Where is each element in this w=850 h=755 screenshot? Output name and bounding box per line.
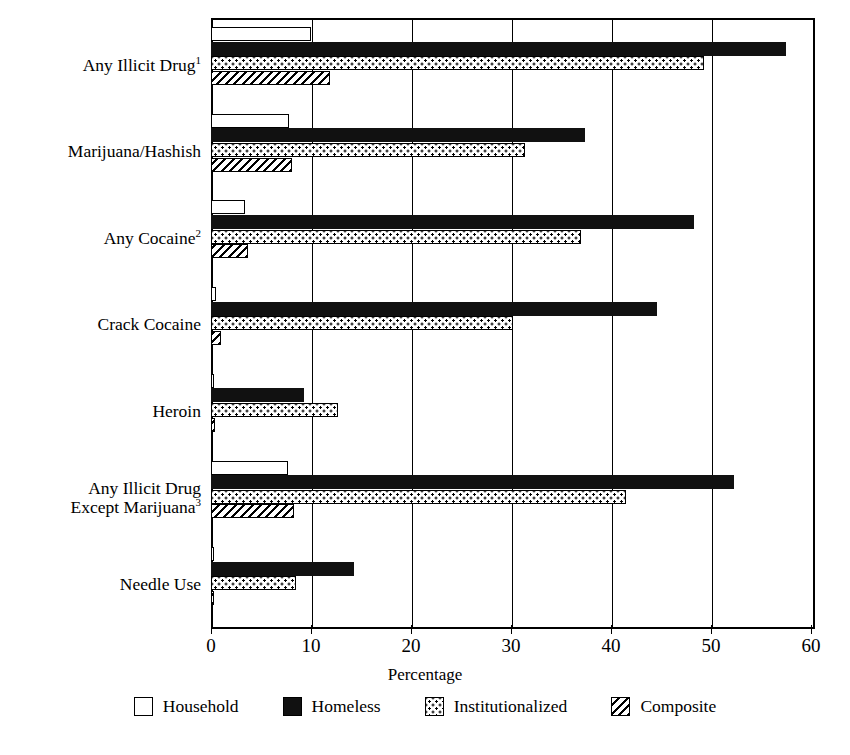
- x-tick-40: [611, 625, 612, 634]
- legend-item-composite[interactable]: Composite: [611, 696, 716, 717]
- bar-household-6: [211, 547, 214, 561]
- x-tick-label-10: 10: [281, 635, 341, 657]
- bar-household-5: [211, 461, 288, 475]
- category-label-line2: Except Marijuana3: [0, 497, 201, 517]
- category-label-line1: Any Illicit Drug: [0, 479, 201, 498]
- x-tick-label-20: 20: [381, 635, 441, 657]
- x-tick-60: [811, 625, 812, 634]
- bar-composite-0: [211, 71, 330, 85]
- category-label-0: Any Illicit Drug1: [0, 55, 213, 75]
- bar-institutionalized-6: [211, 576, 296, 590]
- legend-swatch-composite-icon: [611, 697, 630, 716]
- category-label-2: Any Cocaine2: [0, 228, 213, 248]
- bar-chart: Any Illicit Drug1Marijuana/HashishAny Co…: [0, 0, 850, 755]
- category-label-6: Needle Use: [0, 575, 213, 594]
- x-tick-label-60: 60: [781, 635, 841, 657]
- legend-swatch-household-icon: [134, 697, 153, 716]
- bar-institutionalized-4: [211, 403, 338, 417]
- bar-composite-2: [211, 244, 248, 258]
- bar-composite-5: [211, 504, 294, 518]
- legend-label-institutionalized: Institutionalized: [454, 696, 568, 717]
- x-tick-label-0: 0: [181, 635, 241, 657]
- x-tick-30: [511, 625, 512, 634]
- footnote-marker: 1: [196, 54, 202, 66]
- category-label-4: Heroin: [0, 402, 213, 421]
- bar-household-4: [211, 374, 214, 388]
- x-tick-20: [411, 625, 412, 634]
- bar-institutionalized-5: [211, 490, 626, 504]
- bar-household-0: [211, 27, 311, 41]
- x-axis-title: Percentage: [0, 665, 850, 685]
- legend-label-household: Household: [163, 696, 239, 717]
- bar-institutionalized-1: [211, 143, 525, 157]
- x-tick-label-40: 40: [581, 635, 641, 657]
- chart-legend: Household Homeless Institutionalized Com…: [0, 696, 850, 717]
- x-tick-0: [211, 625, 212, 634]
- x-tick-label-50: 50: [681, 635, 741, 657]
- bar-household-2: [211, 200, 245, 214]
- bar-homeless-0: [211, 42, 786, 56]
- bar-household-1: [211, 114, 289, 128]
- bar-composite-1: [211, 158, 292, 172]
- bar-homeless-1: [211, 128, 585, 142]
- bar-institutionalized-2: [211, 230, 581, 244]
- legend-swatch-homeless-icon: [283, 697, 302, 716]
- bar-household-3: [211, 287, 216, 301]
- x-tick-50: [711, 625, 712, 634]
- legend-label-homeless: Homeless: [312, 696, 381, 717]
- bar-homeless-4: [211, 388, 304, 402]
- legend-item-institutionalized[interactable]: Institutionalized: [425, 696, 568, 717]
- x-tick-10: [311, 625, 312, 634]
- gridline-40: [612, 20, 613, 627]
- category-label-5: Any Illicit DrugExcept Marijuana3: [0, 479, 213, 518]
- bar-homeless-2: [211, 215, 694, 229]
- x-tick-label-30: 30: [481, 635, 541, 657]
- bar-institutionalized-0: [211, 56, 704, 70]
- legend-item-homeless[interactable]: Homeless: [283, 696, 381, 717]
- footnote-marker: 2: [196, 227, 202, 239]
- bar-homeless-6: [211, 562, 354, 576]
- category-label-3: Crack Cocaine: [0, 315, 213, 334]
- bar-institutionalized-3: [211, 316, 513, 330]
- legend-item-household[interactable]: Household: [134, 696, 239, 717]
- footnote-marker: 3: [196, 496, 202, 508]
- bar-homeless-3: [211, 302, 657, 316]
- legend-swatch-institutionalized-icon: [425, 697, 444, 716]
- legend-label-composite: Composite: [640, 696, 716, 717]
- category-label-1: Marijuana/Hashish: [0, 142, 213, 161]
- gridline-50: [712, 20, 713, 627]
- bar-homeless-5: [211, 475, 734, 489]
